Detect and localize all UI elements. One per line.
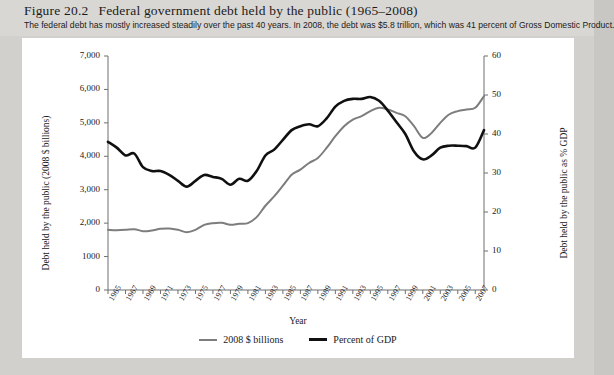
y-left-tick-5,000: 5,000	[56, 117, 100, 127]
y-left-tick-3,000: 3,000	[56, 184, 100, 194]
y-left-tick-4,000: 4,000	[56, 150, 100, 160]
y-right-tick-40: 40	[492, 128, 536, 138]
y-axis-left-title: Debt held by the public (2008 $ billions…	[41, 103, 51, 283]
legend-item-billions: 2008 $ billions	[199, 334, 283, 345]
figure-number: Figure 20.2	[24, 3, 88, 18]
y-right-tick-50: 50	[492, 89, 536, 99]
y-left-tick-7,000: 7,000	[56, 50, 100, 60]
chart-area: Debt held by the public (2008 $ billions…	[22, 38, 574, 358]
line-chart-plot	[22, 38, 574, 358]
legend-swatch-billions	[199, 339, 217, 341]
legend-item-pct-gdp: Percent of GDP	[309, 334, 396, 345]
y-left-tick-0: 0	[56, 284, 100, 294]
legend-swatch-pct-gdp	[309, 338, 327, 341]
y-right-tick-0: 0	[492, 284, 536, 294]
legend-label-pct-gdp: Percent of GDP	[333, 334, 396, 345]
chart-panel: Debt held by the public (2008 $ billions…	[22, 38, 574, 358]
figure-title-text: Federal government debt held by the publ…	[98, 3, 417, 18]
y-right-tick-10: 10	[492, 245, 536, 255]
figure-title: Figure 20.2Federal government debt held …	[24, 3, 418, 19]
y-right-tick-20: 20	[492, 206, 536, 216]
chart-legend: 2008 $ billions Percent of GDP	[22, 334, 574, 345]
figure-caption: The federal debt has mostly increased st…	[24, 20, 614, 30]
y-left-tick-1000: 1000	[56, 251, 100, 261]
y-axis-right-title: Debt held by the public as % GDP	[559, 103, 569, 283]
series-line-billions	[108, 96, 484, 232]
legend-label-billions: 2008 $ billions	[223, 334, 283, 345]
x-axis-title: Year	[22, 316, 574, 326]
y-right-tick-60: 60	[492, 50, 536, 60]
y-left-tick-2,000: 2,000	[56, 217, 100, 227]
y-left-tick-6,000: 6,000	[56, 83, 100, 93]
y-right-tick-30: 30	[492, 167, 536, 177]
series-line-pct-gdp	[108, 97, 484, 187]
